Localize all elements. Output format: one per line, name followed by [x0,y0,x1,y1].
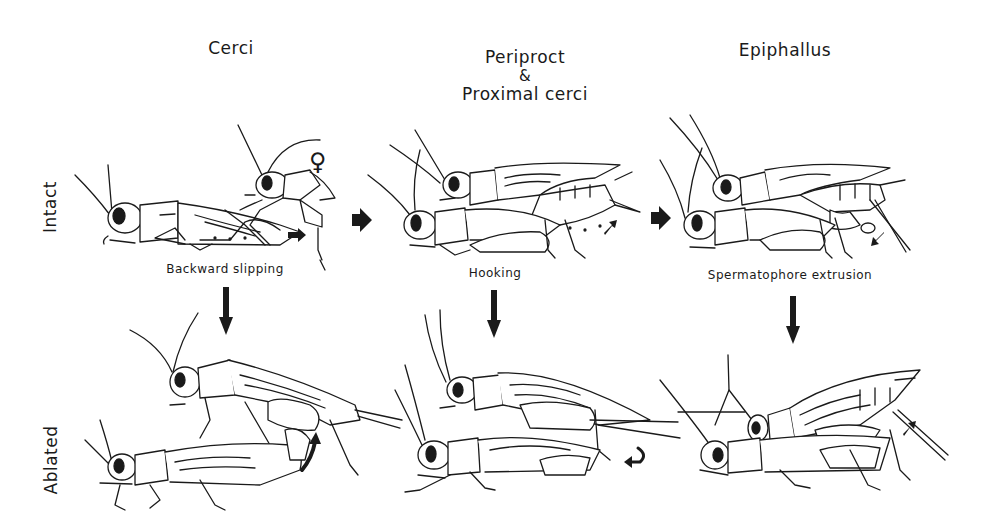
cricket-pair-intact-epiphallus [660,115,910,258]
illustration-canvas [0,0,982,532]
cricket-pair-ablated-hooking [395,310,680,492]
cricket-pair-intact-cerci [75,125,335,270]
arrow-right-icon [651,206,671,230]
arrow-down-icon [487,290,501,338]
arrow-down-icon [219,287,233,335]
cricket-pair-ablated-epiphallus [660,355,948,490]
cricket-pair-ablated-cerci [85,313,402,510]
arrow-down-icon [786,296,800,344]
cricket-pair-intact-hooking [368,130,640,258]
arrow-right-icon [352,208,372,232]
